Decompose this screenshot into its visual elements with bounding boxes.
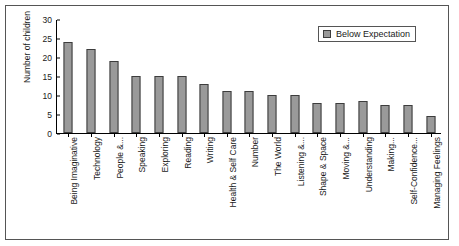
- x-axis-label-slot: Reading: [169, 137, 192, 242]
- bar-slot: [283, 20, 306, 133]
- x-axis-label-slot: Self-Confidence...: [396, 137, 419, 242]
- bar-slot: [419, 20, 442, 133]
- bar: [177, 76, 186, 133]
- x-axis-label-slot: Managing Feelings: [418, 137, 441, 242]
- bar-slot: [102, 20, 125, 133]
- bar: [426, 116, 435, 133]
- y-axis-tick-label: 30: [43, 15, 57, 25]
- bar: [404, 105, 413, 134]
- bar-slot: [238, 20, 261, 133]
- x-axis-label-slot: Exploring: [147, 137, 170, 242]
- x-axis-label-slot: People &...: [101, 137, 124, 242]
- x-axis-label-slot: Shape & Space: [305, 137, 328, 242]
- y-axis-title: Number of children: [22, 0, 32, 102]
- bar-slot: [125, 20, 148, 133]
- bar: [336, 103, 345, 133]
- bar: [381, 105, 390, 134]
- bar: [132, 76, 141, 133]
- figure-frame: Number of children 051015202530 Being Im…: [5, 5, 449, 240]
- y-axis-tick-label: 15: [43, 72, 57, 82]
- x-axis-label-slot: Being Imaginative: [56, 137, 79, 242]
- bar: [358, 101, 367, 133]
- bar-slot: [261, 20, 284, 133]
- bar-slot: [170, 20, 193, 133]
- x-axis-label-slot: Technology: [79, 137, 102, 242]
- bar: [290, 95, 299, 133]
- bar-slot: [80, 20, 103, 133]
- x-axis-label: Managing Feelings: [433, 137, 442, 209]
- bar-slot: [148, 20, 171, 133]
- bar-slot: [193, 20, 216, 133]
- x-axis-label-slot: Number: [237, 137, 260, 242]
- bar: [109, 61, 118, 133]
- x-axis-label-slot: Moving &...: [328, 137, 351, 242]
- bar: [268, 95, 277, 133]
- bar: [200, 84, 209, 133]
- bar-slot: [216, 20, 239, 133]
- bar: [245, 91, 254, 133]
- x-axis-label-slot: The World: [260, 137, 283, 242]
- legend-swatch-icon: [323, 30, 331, 38]
- x-axis-label-slot: Writing: [192, 137, 215, 242]
- bar-chart-figure: Number of children 051015202530 Being Im…: [0, 0, 459, 246]
- bar: [86, 49, 95, 133]
- x-axis-label-slot: Understanding: [350, 137, 373, 242]
- x-axis-label-slot: Listening &...: [282, 137, 305, 242]
- x-axis-labels: Being ImaginativeTechnologyPeople &...Sp…: [56, 137, 441, 242]
- y-axis-tick-label: 25: [43, 34, 57, 44]
- y-axis-tick-mark: [57, 134, 60, 135]
- x-axis-label-slot: Health & Self Care: [215, 137, 238, 242]
- bar: [313, 103, 322, 133]
- bar-slot: [57, 20, 80, 133]
- legend-label: Below Expectation: [336, 29, 410, 39]
- y-axis-tick-label: 5: [47, 110, 57, 120]
- x-axis-label-slot: Making...: [373, 137, 396, 242]
- bar: [222, 91, 231, 133]
- chart-legend: Below Expectation: [318, 26, 416, 42]
- y-axis-tick-label: 10: [43, 91, 57, 101]
- y-axis-tick-label: 20: [43, 53, 57, 63]
- x-axis-label-slot: Speaking: [124, 137, 147, 242]
- bar: [154, 76, 163, 133]
- bar: [64, 42, 73, 133]
